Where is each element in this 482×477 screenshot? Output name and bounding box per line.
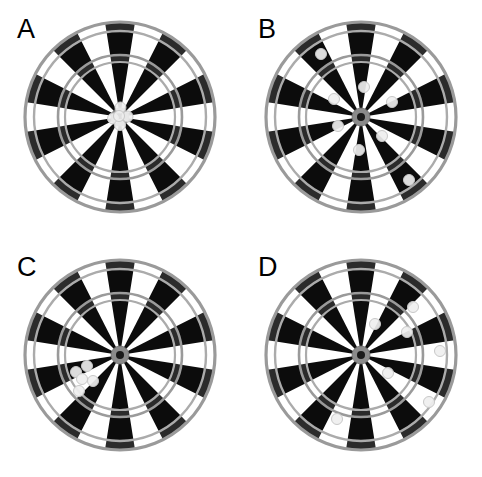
dart-marker[interactable] (408, 302, 419, 313)
dart-marker[interactable] (377, 131, 388, 142)
dart-marker[interactable] (424, 397, 435, 408)
dart-marker[interactable] (114, 111, 125, 122)
segment-black-0-outer (348, 269, 375, 294)
segment-black-10-outer (348, 178, 375, 203)
dart-marker[interactable] (383, 368, 394, 379)
segment-black-0-outer (107, 269, 134, 294)
dart-marker[interactable] (74, 386, 85, 397)
panel-d: D (241, 238, 482, 476)
panel-b: B (241, 0, 482, 238)
segment-black-10-outer (348, 416, 375, 441)
dart-marker[interactable] (370, 319, 381, 330)
bullseye-inner (116, 351, 124, 359)
dart-marker[interactable] (404, 175, 415, 186)
dart-marker[interactable] (329, 94, 340, 105)
dart-marker[interactable] (88, 376, 99, 387)
dartboard-a (17, 14, 223, 220)
board-face-b (266, 22, 456, 212)
dart-marker[interactable] (77, 374, 88, 385)
segment-black-0-outer (107, 31, 134, 56)
dart-marker[interactable] (332, 414, 343, 425)
dartboard-b (258, 14, 464, 220)
board-face-c (25, 260, 215, 450)
bullseye-inner (357, 351, 365, 359)
dart-marker[interactable] (82, 361, 93, 372)
dart-marker[interactable] (316, 49, 327, 60)
board-face-d (266, 260, 456, 450)
segment-black-10-outer (107, 178, 134, 203)
dart-marker[interactable] (387, 97, 398, 108)
panel-c: C (0, 238, 241, 476)
bullseye-inner (357, 113, 365, 121)
segment-black-0-outer (348, 31, 375, 56)
dartboard-c (17, 252, 223, 458)
dart-marker[interactable] (435, 346, 446, 357)
dart-marker[interactable] (402, 327, 413, 338)
panel-a: A (0, 0, 241, 238)
dart-marker[interactable] (354, 145, 365, 156)
dart-marker[interactable] (359, 82, 370, 93)
dartboard-figure: ABCD (0, 0, 482, 477)
segment-black-10-outer (107, 416, 134, 441)
dart-marker[interactable] (333, 121, 344, 132)
dartboard-d (258, 252, 464, 458)
